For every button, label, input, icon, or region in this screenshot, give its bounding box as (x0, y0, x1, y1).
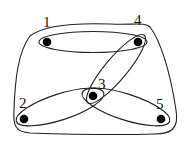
node-label-3: 3 (98, 76, 106, 92)
node-label-4: 4 (134, 12, 142, 28)
hypergraph-diagram: 1 2 3 4 5 (0, 0, 188, 148)
node-label-2: 2 (19, 95, 27, 111)
node-label-1: 1 (43, 14, 51, 30)
node-4 (134, 38, 143, 47)
node-1 (43, 38, 52, 47)
node-5 (157, 115, 166, 124)
node-3 (89, 92, 98, 101)
node-2 (20, 115, 29, 124)
node-label-5: 5 (156, 96, 164, 112)
hyperedge-1-4 (39, 32, 147, 53)
